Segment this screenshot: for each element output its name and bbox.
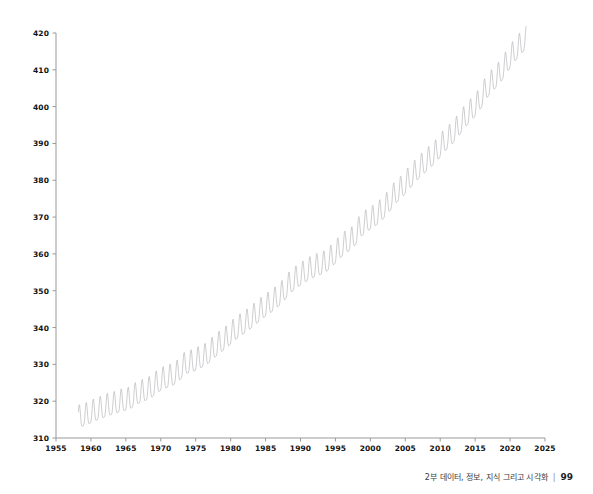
- axis-ticks: [53, 33, 546, 442]
- y-tick-label: 340: [0, 323, 49, 332]
- y-tick-label: 420: [0, 29, 49, 38]
- footer-content: 2부 데이터, 정보, 지식 그리고 시각화 | 99: [425, 471, 573, 482]
- y-tick-label: 360: [0, 249, 49, 258]
- y-tick-label: 330: [0, 360, 49, 369]
- x-tick-label: 1960: [80, 444, 101, 453]
- x-tick-label: 1990: [290, 444, 311, 453]
- chart-figure: 310320330340350360370380390400410420 195…: [0, 0, 593, 462]
- x-tick-label: 1970: [150, 444, 171, 453]
- footer-separator: |: [553, 473, 556, 482]
- page-footer: 2부 데이터, 정보, 지식 그리고 시각화 | 99: [0, 466, 593, 486]
- x-tick-label: 1995: [325, 444, 346, 453]
- y-tick-label: 370: [0, 213, 49, 222]
- page-canvas: 310320330340350360370380390400410420 195…: [0, 0, 593, 494]
- chart-axes: [0, 0, 593, 462]
- x-tick-label: 1965: [115, 444, 136, 453]
- footer-page-number: 99: [560, 472, 573, 482]
- x-tick-label: 2025: [534, 444, 555, 453]
- x-tick-label: 2010: [430, 444, 451, 453]
- y-tick-label: 320: [0, 397, 49, 406]
- y-tick-label: 350: [0, 286, 49, 295]
- x-tick-label: 1980: [220, 444, 241, 453]
- y-tick-label: 400: [0, 102, 49, 111]
- y-tick-label: 380: [0, 176, 49, 185]
- x-tick-label: 2005: [395, 444, 416, 453]
- x-tick-label: 1985: [255, 444, 276, 453]
- y-tick-label: 410: [0, 65, 49, 74]
- footer-caption: 2부 데이터, 정보, 지식 그리고 시각화: [425, 471, 548, 482]
- y-tick-label: 310: [0, 434, 49, 443]
- x-tick-label: 2020: [499, 444, 520, 453]
- x-tick-label: 1975: [185, 444, 206, 453]
- co2-line-series: [78, 27, 526, 427]
- y-tick-label: 390: [0, 139, 49, 148]
- data-series-group: [78, 27, 526, 427]
- x-tick-label: 2000: [360, 444, 381, 453]
- x-tick-label: 1955: [45, 444, 66, 453]
- x-tick-label: 2015: [465, 444, 486, 453]
